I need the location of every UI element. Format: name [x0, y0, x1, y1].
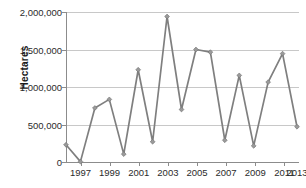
data-point [222, 138, 227, 143]
line-chart: 2,000,000 1,500,000 1,000,000 500,000 0 … [0, 0, 306, 188]
data-point [150, 139, 155, 144]
data-point [295, 124, 300, 129]
data-point [121, 152, 126, 157]
data-point [237, 73, 242, 78]
data-point [179, 107, 184, 112]
data-point [136, 67, 141, 72]
data-point [165, 14, 170, 19]
data-point [194, 47, 199, 52]
series-markers [64, 14, 300, 164]
data-point [251, 143, 256, 148]
data-point [208, 50, 213, 55]
data-series-layer [0, 0, 306, 188]
series-line [66, 17, 297, 162]
